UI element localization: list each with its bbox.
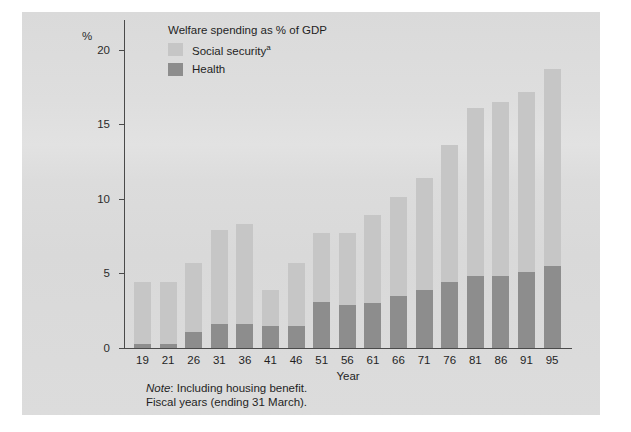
legend-footnote-marker: a <box>266 43 270 52</box>
x-axis-tick-label: 91 <box>520 354 533 366</box>
legend-item-health: Health <box>168 63 327 76</box>
bar-segment-social-security <box>339 233 356 305</box>
footnote-note-word: Note <box>146 382 170 394</box>
bar-stack <box>185 263 202 348</box>
bar-segment-health <box>262 326 279 348</box>
bar-segment-health <box>160 344 177 348</box>
bar-segment-health <box>339 305 356 348</box>
bar-segment-health <box>544 266 561 348</box>
x-axis-tick-label: 66 <box>392 354 405 366</box>
bar-stack <box>518 92 535 348</box>
bar-segment-health <box>211 324 228 348</box>
x-axis-tick-label: 51 <box>315 354 328 366</box>
bar-segment-social-security <box>211 230 228 324</box>
bar-stack <box>160 282 177 348</box>
bar-segment-health <box>185 332 202 348</box>
bar-segment-social-security <box>313 233 330 302</box>
y-axis-tick-label: 5 <box>104 267 110 279</box>
bar-stack <box>262 290 279 348</box>
x-axis-tick-label: 46 <box>290 354 303 366</box>
bar-segment-health <box>134 344 151 348</box>
bar-stack <box>236 224 253 348</box>
bar-stack <box>339 233 356 348</box>
x-axis-tick-label: 41 <box>264 354 277 366</box>
bar-segment-health <box>518 272 535 348</box>
footnote-line-2: Fiscal years (ending 31 March). <box>146 395 307 409</box>
bar-segment-social-security <box>134 282 151 343</box>
bar-segment-health <box>467 276 484 348</box>
legend-rows: Social securityaHealth <box>168 43 327 76</box>
x-axis-tick-label: 36 <box>238 354 251 366</box>
bar-segment-health <box>236 324 253 348</box>
bar-stack <box>390 197 407 348</box>
bar-segment-social-security <box>390 197 407 295</box>
bar-stack <box>211 230 228 348</box>
bar-segment-health <box>441 282 458 348</box>
y-axis-tick-label: 20 <box>97 44 110 56</box>
bar-stack <box>467 108 484 348</box>
bar-segment-health <box>390 296 407 348</box>
bar-stack <box>441 145 458 348</box>
bar-segment-health <box>288 326 305 348</box>
y-axis-tick-label: 15 <box>97 118 110 130</box>
chart-figure: % 05101520 19212631364146515661667176818… <box>0 0 631 432</box>
bar-segment-social-security <box>185 263 202 332</box>
x-axis-tick-label: 86 <box>494 354 507 366</box>
chart-footnote: Note: Including housing benefit. Fiscal … <box>146 381 307 409</box>
x-axis-tick-label: 95 <box>546 354 559 366</box>
chart-legend: Welfare spending as % of GDP Social secu… <box>168 24 327 82</box>
footnote-note-rest: : Including housing benefit. <box>170 382 307 394</box>
x-axis-tick-label: 76 <box>443 354 456 366</box>
x-axis-tick-label: 81 <box>469 354 482 366</box>
bar-stack <box>288 263 305 348</box>
legend-item-social-security: Social securitya <box>168 43 327 57</box>
bar-segment-social-security <box>544 69 561 266</box>
bar-segment-social-security <box>492 102 509 276</box>
legend-swatch-health <box>168 63 183 76</box>
bar-stack <box>492 102 509 348</box>
bar-segment-social-security <box>416 178 433 290</box>
x-axis-line <box>124 348 572 349</box>
bar-segment-social-security <box>288 263 305 326</box>
bar-segment-social-security <box>262 290 279 326</box>
bar-segment-health <box>313 302 330 348</box>
bar-segment-health <box>416 290 433 348</box>
bar-segment-health <box>492 276 509 348</box>
y-axis-unit-label: % <box>82 30 92 42</box>
bar-segment-health <box>364 303 381 348</box>
legend-title: Welfare spending as % of GDP <box>168 24 327 36</box>
x-axis-tick-label: 56 <box>341 354 354 366</box>
bar-segment-social-security <box>364 215 381 303</box>
x-axis-tick-label: 61 <box>366 354 379 366</box>
bar-stack <box>134 282 151 348</box>
bar-stack <box>313 233 330 348</box>
bar-stack <box>364 215 381 348</box>
bar-stack <box>544 69 561 348</box>
legend-label-social-security: Social securitya <box>192 43 271 57</box>
bar-segment-social-security <box>518 92 535 272</box>
bar-segment-social-security <box>236 224 253 324</box>
y-axis-tick-label: 10 <box>97 193 110 205</box>
x-axis-tick-label: 19 <box>136 354 149 366</box>
bar-segment-social-security <box>467 108 484 276</box>
bar-segment-social-security <box>441 145 458 282</box>
footnote-line-1: Note: Including housing benefit. <box>146 381 307 395</box>
legend-label-health: Health <box>192 63 225 75</box>
legend-swatch-social-security <box>168 43 183 56</box>
bar-stack <box>416 178 433 348</box>
x-axis-tick-label: 71 <box>418 354 431 366</box>
y-axis-tick: 0 <box>119 348 124 349</box>
x-axis-tick-label: 26 <box>187 354 200 366</box>
x-axis-tick-label: 31 <box>213 354 226 366</box>
bar-segment-social-security <box>160 282 177 343</box>
x-axis-tick-label: 21 <box>162 354 175 366</box>
y-axis-tick-label: 0 <box>104 342 110 354</box>
